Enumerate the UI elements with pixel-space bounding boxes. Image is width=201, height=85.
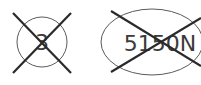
diagram-canvas: 3 5150N [0, 0, 201, 85]
crossed-circle-symbol: 3 [13, 13, 71, 73]
crossed-ellipse-symbol: 5150N [101, 9, 201, 75]
